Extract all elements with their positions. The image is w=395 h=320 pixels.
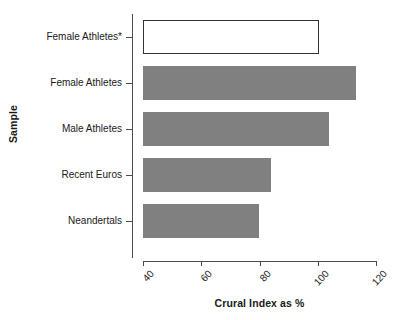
y-axis-tick-labels: Female Athletes* Female Athletes Male At… — [10, 0, 122, 260]
bar-neandertals[interactable] — [143, 204, 259, 238]
x-axis-tick-3 — [318, 261, 319, 266]
y-axis-tick-0 — [126, 37, 132, 38]
x-axis-tick-4 — [376, 261, 377, 266]
x-tick-label-1: 60 — [183, 268, 214, 300]
y-tick-label-2: Male Athletes — [10, 124, 122, 134]
bar-female-athletes[interactable] — [143, 66, 356, 100]
y-tick-label-3: Recent Euros — [10, 170, 122, 180]
x-tick-label-2: 80 — [241, 268, 272, 300]
y-tick-label-0: Female Athletes* — [10, 32, 122, 42]
plot-area — [143, 14, 376, 261]
x-tick-label-4: 120 — [358, 268, 389, 300]
x-axis-tick-1 — [201, 261, 202, 266]
bar-chart: Sample Female Athletes* Female Athletes … — [0, 0, 395, 320]
bar-female-athletes-asterisk[interactable] — [143, 20, 319, 54]
y-axis-tick-3 — [126, 175, 132, 176]
y-axis-line — [132, 14, 133, 258]
x-axis-title: Crural Index as % — [143, 297, 376, 309]
y-axis-tick-2 — [126, 129, 132, 130]
x-axis-tick-0 — [143, 261, 144, 266]
x-tick-label-0: 40 — [125, 268, 156, 300]
y-axis-tick-4 — [126, 221, 132, 222]
x-axis-tick-2 — [260, 261, 261, 266]
bar-recent-euros[interactable] — [143, 158, 271, 192]
y-tick-label-4: Neandertals — [10, 216, 122, 226]
y-tick-label-1: Female Athletes — [10, 78, 122, 88]
bar-male-athletes[interactable] — [143, 112, 329, 146]
x-tick-label-3: 100 — [300, 268, 331, 300]
y-axis-tick-1 — [126, 83, 132, 84]
